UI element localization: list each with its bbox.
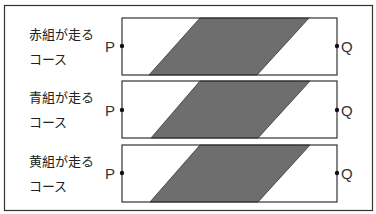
point-q-label: Q	[341, 102, 353, 119]
point-q-dot	[335, 44, 339, 48]
point-p-dot	[120, 108, 124, 112]
course-label-line1: 赤組が走る	[29, 27, 94, 42]
point-q-dot	[335, 171, 339, 175]
point-p-dot	[120, 44, 124, 48]
shaded-region-yellow	[150, 145, 310, 202]
point-p-label: P	[105, 38, 115, 55]
point-p-label: P	[105, 102, 115, 119]
point-q-label: Q	[341, 165, 353, 182]
shaded-region-red	[149, 18, 309, 75]
course-diagram: P Q 赤組が走る コース P Q 青組が走る コース P Q 黄組が走る コー…	[0, 0, 376, 214]
course-label-line2: コース	[29, 115, 67, 130]
point-q-label: Q	[341, 38, 353, 55]
course-red: P Q 赤組が走る コース	[29, 18, 353, 75]
point-p-label: P	[105, 165, 115, 182]
course-yellow: P Q 黄組が走る コース	[29, 145, 353, 202]
course-label-line1: 黄組が走る	[29, 154, 94, 169]
shaded-region-blue	[151, 81, 310, 138]
course-label-line1: 青組が走る	[29, 90, 94, 105]
course-blue: P Q 青組が走る コース	[29, 81, 353, 138]
point-p-dot	[120, 171, 124, 175]
course-label-line2: コース	[29, 52, 67, 67]
point-q-dot	[335, 108, 339, 112]
course-label-line2: コース	[29, 179, 67, 194]
